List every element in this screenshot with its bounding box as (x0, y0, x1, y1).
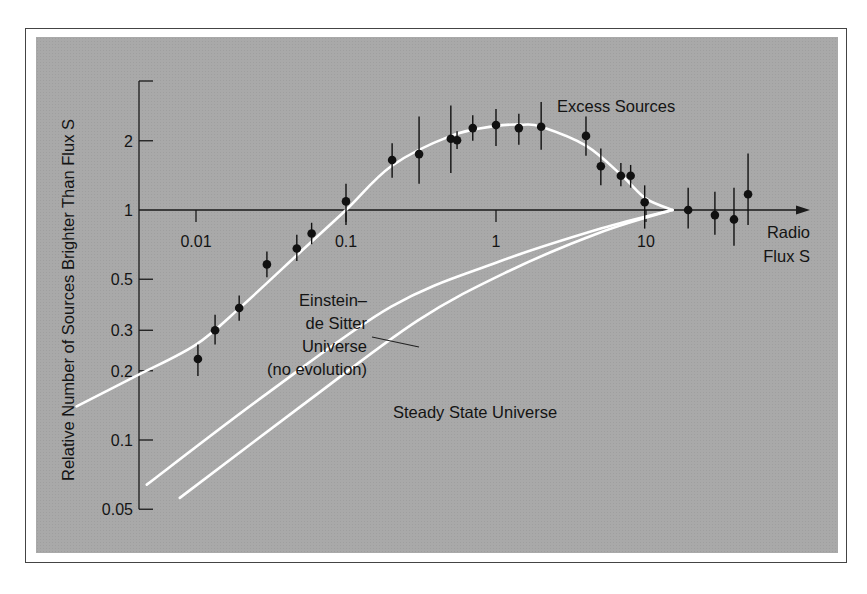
data-point (626, 165, 635, 188)
marker-dot (582, 132, 591, 141)
annotation-excess-sources: Excess Sources (557, 97, 675, 115)
annotation-eds-line2: de Sitter (306, 314, 368, 332)
curve-steady-state (180, 210, 673, 498)
data-point (388, 143, 397, 178)
y-tick-label: 0.2 (111, 363, 133, 380)
data-point (640, 185, 649, 228)
annotation-eds-line1: Einstein– (299, 291, 368, 309)
marker-dot (211, 326, 220, 335)
x-tick-label: 1 (492, 233, 501, 250)
y-tick-label: 1 (124, 202, 133, 219)
marker-dot (744, 190, 753, 199)
data-point (235, 295, 244, 320)
marker-dot (626, 171, 635, 180)
curve-einstein-de-sitter (147, 210, 673, 485)
marker-dot (640, 198, 649, 207)
y-tick-label: 0.1 (111, 432, 133, 449)
marker-dot (468, 124, 477, 133)
data-point (342, 184, 351, 225)
marker-dot (307, 229, 316, 238)
marker-dot (388, 156, 397, 165)
x-tick-label: 0.1 (335, 233, 357, 250)
marker-dot (293, 244, 302, 253)
data-point (307, 223, 316, 244)
marker-dot (711, 211, 720, 220)
marker-dot (492, 121, 501, 130)
data-point (537, 102, 546, 150)
marker-dot (453, 136, 462, 145)
data-points (194, 102, 753, 376)
annotations: Relative Number of Sources Brighter Than… (59, 97, 810, 481)
marker-dot (515, 124, 524, 133)
y-tick-label: 0.3 (111, 322, 133, 339)
annotation-eds-line3: Universe (302, 337, 367, 355)
y-tick-label: 0.05 (102, 501, 133, 518)
annotation-steady-state: Steady State Universe (393, 403, 557, 421)
annotation-eds-line4: (no evolution) (267, 360, 367, 378)
data-point (194, 345, 203, 376)
y-tick-label: 0.5 (111, 271, 133, 288)
marker-dot (730, 215, 739, 224)
marker-dot (342, 197, 351, 206)
curve-evolution-fit (77, 124, 673, 406)
data-point (211, 315, 220, 345)
data-point (617, 163, 626, 186)
data-point (492, 109, 501, 146)
data-point (711, 192, 720, 235)
marker-dot (194, 355, 203, 364)
data-point (515, 114, 524, 145)
marker-dot (617, 171, 626, 180)
axes: 210.50.30.20.10.050.010.1110 (102, 81, 810, 518)
eds-leader-line (372, 337, 419, 347)
x-axis-title-line1: Radio (767, 223, 810, 241)
marker-dot (597, 162, 606, 171)
marker-dot (537, 123, 546, 132)
marker-dot (684, 206, 693, 215)
marker-dot (415, 150, 424, 159)
data-point (263, 252, 272, 278)
data-point (730, 188, 739, 246)
marker-dot (263, 260, 272, 269)
chart: 210.50.30.20.10.050.010.1110 Relative Nu… (0, 0, 867, 594)
x-tick-label: 10 (637, 233, 655, 250)
data-point (684, 188, 693, 229)
data-point (582, 116, 591, 155)
x-axis-arrow-icon (796, 206, 810, 215)
data-point (468, 115, 477, 140)
marker-dot (235, 304, 244, 313)
x-axis-title-line2: Flux S (763, 247, 810, 265)
data-point (744, 154, 753, 226)
y-axis-title: Relative Number of Sources Brighter Than… (59, 119, 77, 481)
model-curves (77, 124, 673, 497)
y-tick-label: 2 (124, 133, 133, 150)
x-tick-label: 0.01 (180, 233, 211, 250)
